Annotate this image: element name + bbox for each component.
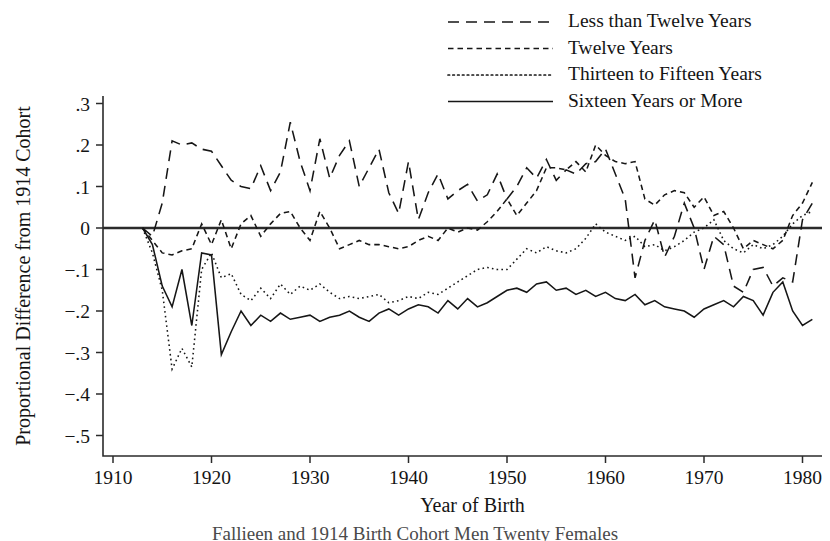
y-tick-label: −.1 bbox=[64, 260, 90, 281]
series-line bbox=[143, 228, 813, 355]
axes-group bbox=[96, 96, 822, 463]
figure-container: .3.2.10−.1−.2−.3−.4−.5191019201930194019… bbox=[0, 0, 830, 541]
legend-label: Thirteen to Fifteen Years bbox=[568, 63, 762, 84]
x-tick-label: 1980 bbox=[783, 467, 822, 488]
series-line bbox=[143, 122, 813, 292]
y-tick-label: .3 bbox=[75, 94, 90, 115]
legend-label: Less than Twelve Years bbox=[568, 10, 752, 31]
y-axis-title: Proportional Difference from 1914 Cohort bbox=[12, 106, 35, 446]
x-tick-label: 1930 bbox=[291, 467, 330, 488]
x-tick-label: 1920 bbox=[192, 467, 231, 488]
axis-spines bbox=[103, 96, 822, 456]
y-tick-label: .1 bbox=[75, 177, 90, 198]
y-tick-label: .2 bbox=[75, 135, 90, 156]
y-tick-label: −.4 bbox=[64, 384, 90, 405]
series-line bbox=[143, 211, 813, 369]
y-tick-label: −.5 bbox=[64, 426, 90, 447]
x-tick-label: 1910 bbox=[94, 467, 133, 488]
x-tick-label: 1950 bbox=[488, 467, 527, 488]
legend-label: Twelve Years bbox=[568, 37, 673, 58]
x-tick-label: 1940 bbox=[389, 467, 428, 488]
figure-caption-clipped: Fallieen and 1914 Birth Cohort Men Twent… bbox=[0, 527, 830, 541]
x-axis-title: Year of Birth bbox=[420, 494, 525, 516]
figure-caption-text: Fallieen and 1914 Birth Cohort Men Twent… bbox=[0, 527, 830, 541]
legend-label: Sixteen Years or More bbox=[568, 90, 742, 111]
x-tick-label: 1970 bbox=[685, 467, 724, 488]
chart-legend: Less than Twelve YearsTwelve YearsThirte… bbox=[448, 10, 762, 111]
x-tick-label: 1960 bbox=[586, 467, 625, 488]
series-group bbox=[143, 122, 813, 369]
y-tick-label: −.2 bbox=[64, 301, 90, 322]
y-tick-label: −.3 bbox=[64, 343, 90, 364]
tick-labels-group: .3.2.10−.1−.2−.3−.4−.5191019201930194019… bbox=[64, 94, 822, 489]
line-chart: .3.2.10−.1−.2−.3−.4−.5191019201930194019… bbox=[0, 0, 830, 541]
y-tick-label: 0 bbox=[80, 218, 90, 239]
